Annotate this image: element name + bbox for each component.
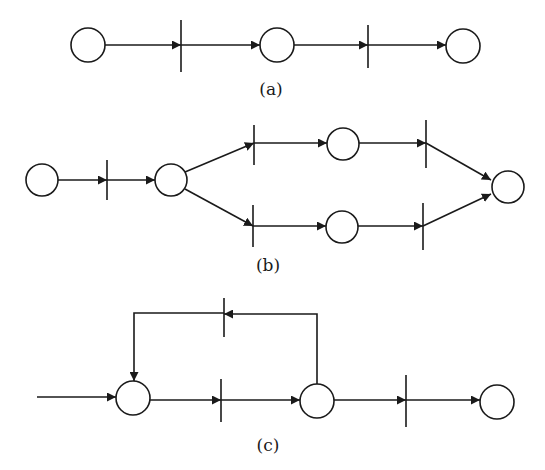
place-b2 [155, 164, 187, 196]
subfigure-a: (a) [71, 20, 480, 99]
arc-c2-t2-feedback [224, 314, 317, 384]
petri-net-figure: (a) (b) [0, 0, 545, 470]
place-b4 [326, 211, 358, 243]
arc-t5-b5 [423, 194, 491, 226]
caption-b: (b) [256, 255, 280, 275]
place-a3 [446, 29, 480, 63]
caption-a: (a) [259, 79, 282, 99]
place-a2 [260, 28, 294, 62]
arc-t2-c1-feedback [134, 313, 224, 381]
subfigure-b: (b) [26, 120, 524, 275]
place-a1 [71, 28, 105, 62]
caption-c: (c) [257, 435, 280, 455]
place-c1 [116, 381, 150, 415]
place-c2 [300, 384, 334, 418]
place-b5 [492, 171, 524, 203]
subfigure-c: (c) [37, 298, 514, 455]
arc-t4-b5 [426, 143, 491, 180]
arc-b2-t3 [185, 189, 253, 226]
place-c3 [480, 385, 514, 419]
place-b1 [26, 164, 58, 196]
arc-b2-t2 [185, 143, 254, 172]
place-b3 [327, 128, 359, 160]
